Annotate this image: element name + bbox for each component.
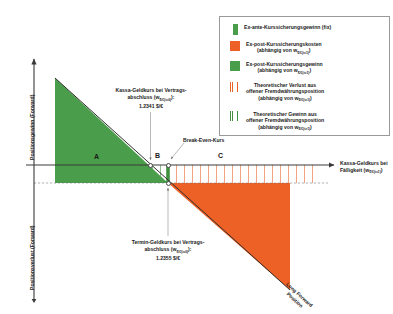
legend-item-1: Ex-post-Kurssicherungskosten (abhängig v…	[230, 41, 322, 55]
point-break-even-on-axis	[166, 163, 171, 168]
legend-box: Ex-ante-Kurssicherungsgewinn (fix) Ex-po…	[219, 16, 390, 136]
legend-swatch-theoretical-gain	[230, 111, 240, 121]
legend-swatch-ex-post-gain	[230, 61, 240, 71]
legend-label-3: Theoretischer Verlust aus offener Fremdw…	[246, 82, 324, 102]
break-even-leader	[171, 143, 184, 159]
legend-item-0: Ex-ante-Kurssicherungsgewinn (fix)	[233, 24, 331, 35]
y-axis-upper-label: Positionsgewinn (Forward)	[29, 95, 35, 160]
point-forward-rate	[166, 181, 171, 186]
legend-swatch-ex-ante-gain	[233, 24, 238, 35]
point-spot-rate-on-axis	[148, 163, 153, 168]
theoretical-loss-hatch-area	[168, 165, 320, 183]
region-label-a: A	[94, 153, 99, 160]
x-axis-label: Kassa-Geldkurs bei Fälligkeit (w$/€(t=1)…	[340, 160, 388, 175]
region-label-c: C	[218, 152, 223, 159]
region-label-b: B	[155, 152, 160, 159]
break-even-annotation: Break-Even-Kurs	[183, 137, 224, 143]
spot-rate-annotation: Kassa-Geldkurs bei Vertrags- abschluss (…	[87, 87, 215, 110]
legend-item-4: Theoretischer Gewinn aus offener Fremdwä…	[230, 111, 324, 131]
legend-label-2: Ex-post-Kurssicherungsgewinn (abhängig v…	[246, 61, 323, 75]
legend-label-0: Ex-ante-Kurssicherungsgewinn (fix)	[244, 24, 331, 30]
legend-label-4: Theoretischer Gewinn aus offener Fremdwä…	[246, 111, 324, 131]
y-axis-lower-label: Positionsverlust (Forward)	[29, 225, 35, 290]
y-axis-down-arrow	[32, 299, 37, 303]
legend-label-1: Ex-post-Kurssicherungskosten (abhängig v…	[246, 41, 322, 55]
legend-swatch-theoretical-loss	[230, 82, 240, 92]
legend-swatch-ex-post-cost	[230, 41, 240, 51]
figure-canvas: Positionsgewinn (Forward) Positionsverlu…	[0, 0, 393, 314]
legend-item-3: Theoretischer Verlust aus offener Fremdw…	[230, 82, 324, 102]
legend-item-2: Ex-post-Kurssicherungsgewinn (abhängig v…	[230, 61, 323, 75]
forward-rate-annotation: Termin-Geldkurs bei Vertrags- abschluss …	[94, 239, 242, 262]
